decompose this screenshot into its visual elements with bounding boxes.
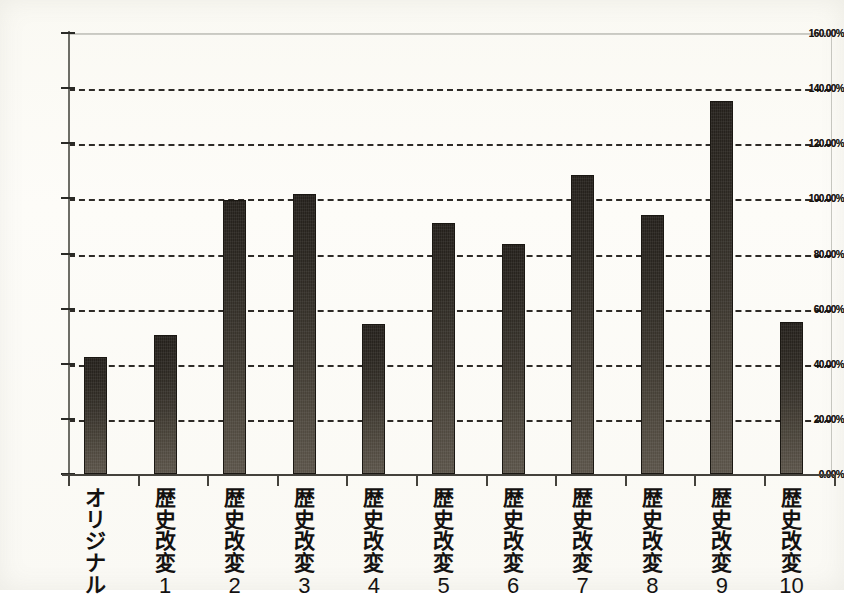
y-tick-80 — [61, 253, 75, 255]
category-label-char: 変 — [635, 553, 669, 575]
category-label: 歴史改変2 — [218, 488, 252, 597]
category-label-char: 改 — [635, 531, 669, 553]
category-label-char: 変 — [775, 553, 809, 575]
category-label: 歴史改変4 — [357, 488, 391, 597]
x-tick — [416, 475, 418, 486]
y-tick-60 — [61, 308, 75, 310]
category-label-char: 歴 — [775, 488, 809, 510]
category-label: 歴史改変7 — [566, 488, 600, 597]
x-tick — [694, 475, 696, 486]
y-axis-label: 160.00% — [786, 28, 844, 39]
category-label: 歴史改変3 — [287, 488, 321, 597]
category-label-char: ナ — [79, 553, 113, 575]
category-label-char: 改 — [218, 531, 252, 553]
y-tick-100 — [61, 197, 75, 199]
category-label-char: 改 — [427, 531, 461, 553]
gridline-160 — [69, 34, 831, 35]
x-tick — [138, 475, 140, 486]
gridline-140 — [69, 89, 831, 91]
category-label-char: 変 — [148, 553, 182, 575]
category-label-char: 変 — [287, 553, 321, 575]
category-label-char: 改 — [566, 531, 600, 553]
category-label: 歴史改変5 — [427, 488, 461, 597]
y-tick-160 — [61, 32, 75, 34]
bar — [362, 324, 385, 474]
category-label-char: 史 — [566, 510, 600, 532]
category-label-char: 史 — [775, 510, 809, 532]
category-label: オリジナル — [79, 488, 113, 596]
x-tick — [486, 475, 488, 486]
category-label-char: 変 — [496, 553, 530, 575]
category-label-number: 2 — [218, 575, 252, 597]
category-label: 歴史改変1 — [148, 488, 182, 597]
category-label: 歴史改変10 — [775, 488, 809, 597]
category-label-char: 改 — [775, 531, 809, 553]
category-label-char: 歴 — [427, 488, 461, 510]
x-tick — [346, 475, 348, 486]
category-label-char: 歴 — [218, 488, 252, 510]
category-label-char: 歴 — [705, 488, 739, 510]
category-label-char: 変 — [427, 553, 461, 575]
category-label: 歴史改変9 — [705, 488, 739, 597]
category-label-char: 歴 — [357, 488, 391, 510]
category-label-char: 改 — [287, 531, 321, 553]
category-label-char: 史 — [287, 510, 321, 532]
category-label-char: 歴 — [287, 488, 321, 510]
category-label-number: 4 — [357, 575, 391, 597]
bar — [432, 223, 455, 474]
category-label-char: 変 — [705, 553, 739, 575]
category-label-char: 史 — [357, 510, 391, 532]
category-label-char: 変 — [218, 553, 252, 575]
x-tick — [764, 475, 766, 486]
category-label: 歴史改変6 — [496, 488, 530, 597]
bar — [502, 244, 525, 474]
category-label-char: 歴 — [635, 488, 669, 510]
category-label-char: 変 — [566, 553, 600, 575]
category-label-char: ジ — [79, 531, 113, 553]
category-label-number: 3 — [287, 575, 321, 597]
category-label-char: オ — [79, 488, 113, 510]
y-tick-20 — [61, 418, 75, 420]
category-label-char: 史 — [148, 510, 182, 532]
category-label-char: リ — [79, 510, 113, 532]
bar — [641, 215, 664, 474]
category-label-number: 7 — [566, 575, 600, 597]
bar — [571, 175, 594, 474]
category-label-char: 史 — [218, 510, 252, 532]
y-tick-40 — [61, 363, 75, 365]
category-label-char: 史 — [496, 510, 530, 532]
x-tick — [625, 475, 627, 486]
x-axis-line — [62, 474, 834, 476]
bar — [710, 101, 733, 474]
category-label-number: 9 — [705, 575, 739, 597]
category-label-char: 歴 — [566, 488, 600, 510]
y-axis-label: 140.00% — [786, 83, 844, 94]
category-label-char: 改 — [496, 531, 530, 553]
category-label-number: 1 — [148, 575, 182, 597]
y-axis-label: 60.00% — [786, 303, 844, 314]
category-label-char: 史 — [635, 510, 669, 532]
bar — [154, 335, 177, 474]
x-tick — [277, 475, 279, 486]
y-axis-label: 80.00% — [786, 248, 844, 259]
y-tick-140 — [61, 87, 75, 89]
bar — [84, 357, 107, 474]
category-label-number: 10 — [775, 575, 809, 597]
category-label-char: 歴 — [496, 488, 530, 510]
category-label: 歴史改変8 — [635, 488, 669, 597]
category-label-char: 史 — [705, 510, 739, 532]
category-label-number: 5 — [427, 575, 461, 597]
category-label-char: 改 — [705, 531, 739, 553]
bar — [223, 200, 246, 474]
category-label-char: ル — [79, 575, 113, 597]
category-label-char: 変 — [357, 553, 391, 575]
x-tick — [207, 475, 209, 486]
bar — [293, 194, 316, 474]
category-label-char: 歴 — [148, 488, 182, 510]
y-tick-120 — [61, 142, 75, 144]
x-tick — [555, 475, 557, 486]
category-label-char: 史 — [427, 510, 461, 532]
category-label-char: 改 — [357, 531, 391, 553]
x-tick — [68, 475, 70, 486]
